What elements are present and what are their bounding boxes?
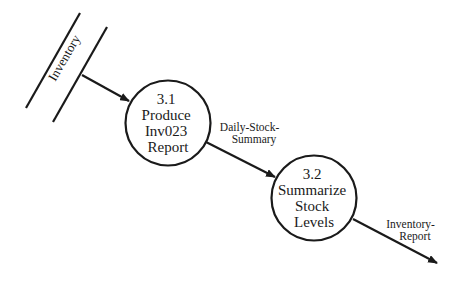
- process-label: 3.2 Summarize Stock Levels: [278, 166, 350, 230]
- process-number: 3.1: [157, 91, 176, 107]
- process-label: 3.1 Produce Inv023 Report: [142, 91, 195, 155]
- flow-arrow-inventory-to-3-1: [82, 75, 129, 101]
- flow-label-daily-stock-summary: Daily-Stock- Summary: [220, 121, 282, 146]
- process-3-2: 3.2 Summarize Stock Levels: [272, 156, 357, 241]
- data-flow-diagram: Inventory 3.1 Produce Inv023 Report Dail…: [0, 0, 461, 287]
- process-3-1: 3.1 Produce Inv023 Report: [126, 81, 211, 166]
- flow-arrow-3-1-to-3-2: [206, 142, 275, 177]
- data-store-inventory: Inventory: [26, 13, 107, 122]
- process-number: 3.2: [303, 166, 322, 182]
